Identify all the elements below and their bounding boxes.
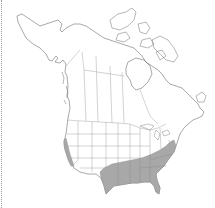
range-map: [0, 0, 215, 208]
great-lakes: [140, 124, 170, 140]
hudson-bay: [126, 58, 152, 90]
baffin-island: [152, 36, 178, 62]
north-america-map: [0, 0, 215, 208]
newfoundland: [196, 92, 206, 102]
range-southeast-us: [100, 140, 176, 194]
